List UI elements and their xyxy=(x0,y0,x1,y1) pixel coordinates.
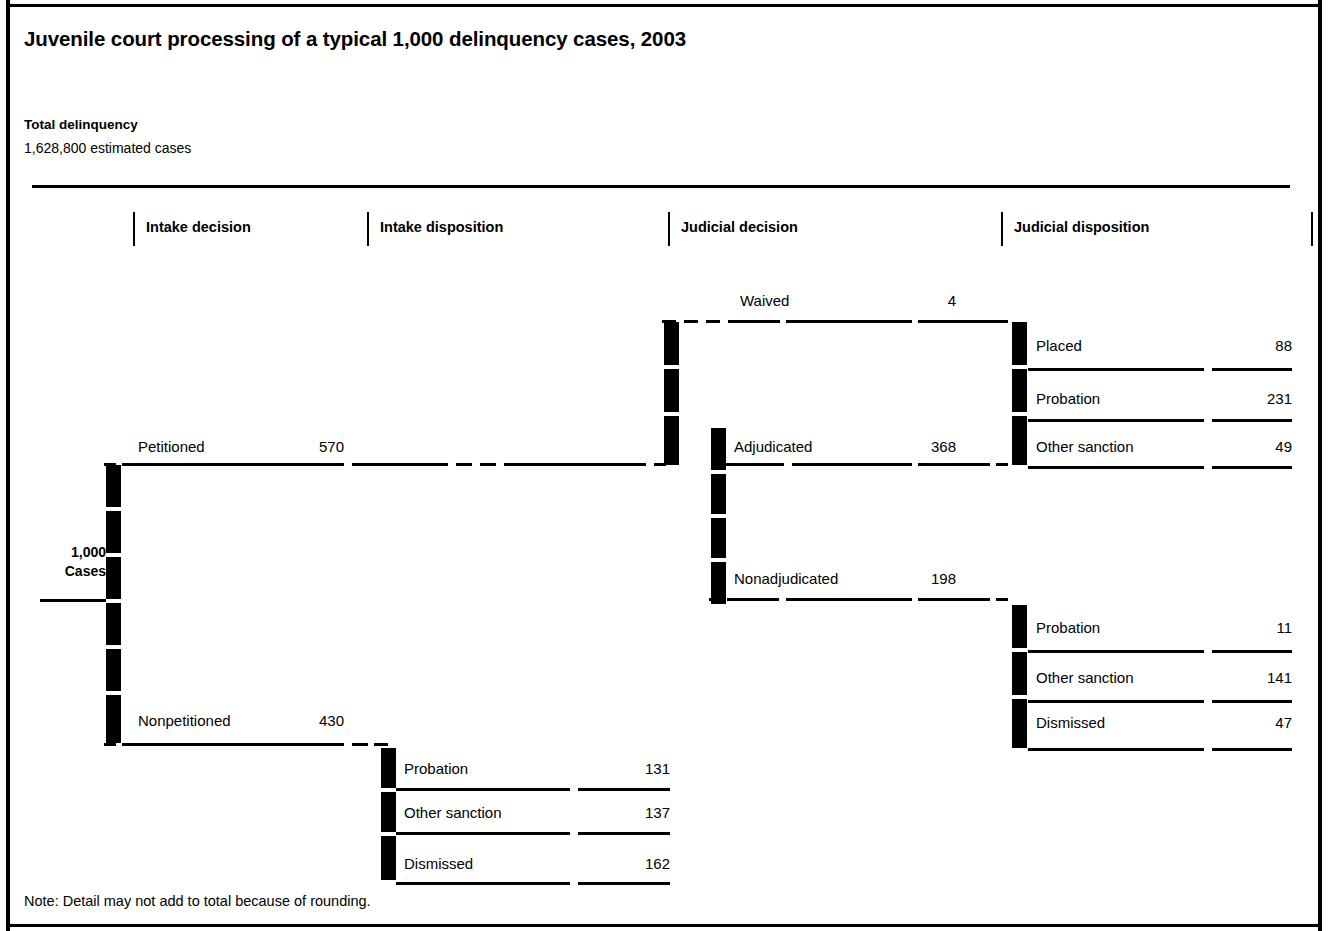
bar-segment xyxy=(106,465,121,507)
node-value-adj-placed: 88 xyxy=(1236,337,1292,354)
node-value-np-other: 137 xyxy=(614,804,670,821)
connector-dash-nonpetitioned xyxy=(104,743,116,746)
bar-segment xyxy=(711,518,726,558)
connector-dash-waived-a xyxy=(662,320,676,323)
node-label-adj-probation: Probation xyxy=(1036,390,1100,407)
node-value-nonadj-other: 141 xyxy=(1236,669,1292,686)
column-header-intake-disposition: Intake disposition xyxy=(380,219,503,235)
bar-segment xyxy=(664,416,679,461)
bar-segment xyxy=(1012,369,1027,412)
bar-segment xyxy=(1012,699,1027,744)
node-value-nonadjudicated: 198 xyxy=(900,570,956,587)
bar-segment xyxy=(1012,416,1027,461)
node-value-adj-probation: 231 xyxy=(1236,390,1292,407)
bar-segment xyxy=(106,649,121,691)
row-rule-np-other-a xyxy=(396,832,570,835)
bar-segment xyxy=(381,792,396,832)
connector-dash-nonadjudicated-a xyxy=(709,598,721,601)
node-label-np-dismissed: Dismissed xyxy=(404,855,473,872)
node-label-nonadjudicated: Nonadjudicated xyxy=(734,570,838,587)
node-value-np-probation: 131 xyxy=(614,760,670,777)
node-value-adj-other: 49 xyxy=(1236,438,1292,455)
row-rule-nonadj-dismissed-a xyxy=(1028,748,1204,751)
intake-disposition-bar xyxy=(381,748,396,880)
connector-line-nonpetitioned-a xyxy=(122,743,344,746)
connector-line-petitioned-c xyxy=(504,463,646,466)
row-rule-nonadjudicated-a xyxy=(727,598,779,601)
row-rule-nonadj-other-a xyxy=(1028,700,1204,703)
node-value-petitioned: 570 xyxy=(288,438,344,455)
bar-segment xyxy=(664,322,679,365)
column-tick-judicial-decision xyxy=(668,212,670,246)
node-label-adjudicated: Adjudicated xyxy=(734,438,812,455)
node-label-nonpetitioned: Nonpetitioned xyxy=(138,712,231,729)
column-tick-judicial-disposition xyxy=(1001,212,1003,246)
connector-line-nonpetitioned-b xyxy=(352,743,368,746)
column-tick-intake-decision xyxy=(133,212,135,246)
bar-segment xyxy=(711,474,726,514)
judicial-disposition-bar-lower xyxy=(1012,605,1027,748)
row-rule-adjudicated-c xyxy=(918,463,990,466)
frame-top-rule xyxy=(6,4,1322,7)
total-delinquency-value: 1,628,800 estimated cases xyxy=(24,140,191,156)
figure-canvas: Juvenile court processing of a typical 1… xyxy=(0,0,1329,931)
connector-line-waived-a xyxy=(728,320,780,323)
bar-segment xyxy=(106,511,121,553)
node-value-adjudicated: 368 xyxy=(900,438,956,455)
figure-title: Juvenile court processing of a typical 1… xyxy=(24,27,686,51)
column-tick-end xyxy=(1311,212,1313,246)
bar-segment xyxy=(1012,605,1027,648)
column-tick-intake-disposition xyxy=(367,212,369,246)
frame-left-rule xyxy=(6,0,10,931)
row-rule-adj-placed-a xyxy=(1028,368,1204,371)
row-rule-adj-other-a xyxy=(1028,466,1204,469)
row-rule-np-probation-a xyxy=(396,788,570,791)
node-value-nonadj-probation: 11 xyxy=(1236,619,1292,636)
node-label-np-probation: Probation xyxy=(404,760,468,777)
column-header-judicial-decision: Judicial decision xyxy=(681,219,798,235)
node-label-adj-placed: Placed xyxy=(1036,337,1082,354)
row-rule-adj-probation-a xyxy=(1028,419,1204,422)
connector-line-waived-b xyxy=(786,320,912,323)
bar-segment xyxy=(106,695,121,737)
node-label-nonadj-probation: Probation xyxy=(1036,619,1100,636)
root-node-label-line1: 1,000 xyxy=(20,543,106,562)
column-header-intake-decision: Intake decision xyxy=(146,219,251,235)
row-rule-adj-probation-b xyxy=(1212,419,1292,422)
row-rule-adjudicated-a xyxy=(726,463,784,466)
row-rule-nonadj-dismissed-b xyxy=(1212,748,1292,751)
row-rule-np-other-b xyxy=(578,832,670,835)
connector-line-waived-c xyxy=(918,320,1008,323)
node-value-nonadj-dismissed: 47 xyxy=(1236,714,1292,731)
connector-dash-adjudicated xyxy=(996,463,1008,466)
bar-segment xyxy=(381,836,396,876)
judicial-decision-bar-lower xyxy=(711,428,726,600)
connector-line-petitioned-b xyxy=(352,463,448,466)
connector-dash-petitioned-c xyxy=(480,463,496,466)
connector-dash-nonadjudicated-b xyxy=(996,598,1008,601)
connector-dash-nonpetitioned-b xyxy=(374,743,388,746)
node-label-waived: Waived xyxy=(740,292,789,309)
node-value-nonpetitioned: 430 xyxy=(288,712,344,729)
node-label-nonadj-other: Other sanction xyxy=(1036,669,1134,686)
frame-bottom-rule xyxy=(6,924,1322,927)
connector-dash-waived-b xyxy=(684,320,698,323)
row-rule-adjudicated-b xyxy=(792,463,912,466)
row-rule-adj-placed-b xyxy=(1212,368,1292,371)
row-rule-nonadjudicated-b xyxy=(786,598,912,601)
header-divider-rule xyxy=(32,185,1290,188)
bar-segment xyxy=(711,428,726,470)
node-value-np-dismissed: 162 xyxy=(614,855,670,872)
frame-right-rule xyxy=(1318,0,1322,931)
row-rule-adj-other-b xyxy=(1212,466,1292,469)
row-rule-nonadj-other-b xyxy=(1212,700,1292,703)
node-label-np-other: Other sanction xyxy=(404,804,502,821)
note-divider-spacer xyxy=(32,882,1290,885)
judicial-decision-bar-upper xyxy=(664,322,679,465)
bar-segment xyxy=(106,557,121,599)
root-node-label: 1,000 Cases xyxy=(20,543,106,581)
row-rule-nonadjudicated-c xyxy=(918,598,990,601)
bar-segment xyxy=(1012,322,1027,365)
total-delinquency-label: Total delinquency xyxy=(24,117,138,132)
connector-dash-petitioned xyxy=(104,463,116,466)
